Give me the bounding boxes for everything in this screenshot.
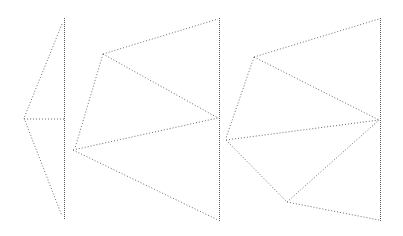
dotted-segment-s10	[254, 57, 379, 120]
dotted-segment-s1	[24, 24, 62, 118]
dotted-segment-s5	[103, 54, 218, 118]
dotted-segment-s9	[254, 19, 379, 57]
dotted-segment-s7	[73, 118, 218, 150]
dotted-segment-s2	[24, 118, 62, 216]
dotted-segment-s15	[287, 202, 379, 220]
dotted-segment-s8	[73, 150, 218, 220]
diagram-canvas	[0, 0, 403, 236]
dotted-segment-s13	[226, 140, 287, 202]
dotted-segment-s11	[226, 57, 254, 138]
dotted-segment-s6	[75, 54, 103, 148]
dotted-segment-s4	[103, 19, 218, 54]
dotted-segments	[24, 19, 379, 220]
dotted-segment-s12	[226, 120, 379, 140]
dotted-segment-s14	[287, 120, 379, 202]
vertical-lines	[65, 18, 381, 222]
